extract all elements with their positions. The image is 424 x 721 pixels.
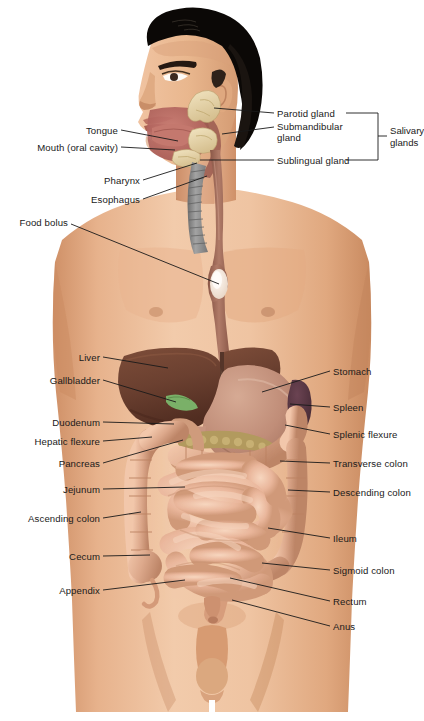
anatomy-illustration [0, 0, 424, 721]
label-submandibular-line2: gland [277, 132, 343, 143]
label-appendix: Appendix [59, 585, 100, 596]
label-duodenum: Duodenum [52, 417, 100, 428]
label-sigmoid-colon: Sigmoid colon [333, 565, 395, 576]
label-rectum: Rectum [333, 596, 367, 607]
label-ascending-colon: Ascending colon [28, 513, 100, 524]
label-salivary-glands-group: Salivary glands [390, 125, 424, 148]
digestive-system-figure: Tongue Mouth (oral cavity) Pharynx Esoph… [0, 0, 424, 721]
salivary-group-line1: Salivary [390, 125, 424, 137]
label-liver: Liver [79, 352, 100, 363]
label-food-bolus: Food bolus [20, 217, 68, 228]
label-splenic-flexure: Splenic flexure [333, 429, 397, 440]
salivary-bracket [346, 113, 378, 160]
label-transverse-colon: Transverse colon [333, 458, 408, 469]
salivary-group-line2: glands [390, 136, 424, 148]
label-hepatic-flexure: Hepatic flexure [35, 436, 101, 447]
label-cecum: Cecum [69, 551, 100, 562]
label-submandibular-line1: Submandibular [277, 121, 343, 132]
label-gallbladder: Gallbladder [50, 375, 100, 386]
small-intestine-organ [168, 463, 282, 591]
label-tongue: Tongue [86, 125, 118, 136]
label-pharynx: Pharynx [104, 175, 140, 186]
label-ileum: Ileum [333, 533, 357, 544]
label-anus: Anus [333, 621, 355, 632]
label-sublingual-gland: Sublingual gland [277, 155, 350, 166]
label-stomach: Stomach [333, 366, 372, 377]
label-jejunum: Jejunum [63, 484, 100, 495]
label-parotid-gland: Parotid gland [277, 108, 335, 119]
label-esophagus: Esophagus [91, 194, 140, 205]
label-pancreas: Pancreas [59, 458, 100, 469]
label-spleen: Spleen [333, 402, 363, 413]
label-submandibular-gland: Submandibular gland [277, 121, 343, 143]
label-descending-colon: Descending colon [333, 487, 411, 498]
label-mouth: Mouth (oral cavity) [37, 142, 118, 153]
